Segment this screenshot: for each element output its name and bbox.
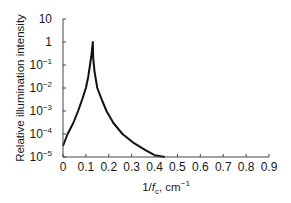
y-tick-label: 10−2 [30, 80, 53, 95]
intensity-curve [63, 42, 165, 157]
y-tick-label: 10−4 [30, 126, 53, 141]
y-tick-label: 10−1 [30, 57, 53, 72]
y-tick-label: 10−5 [30, 149, 53, 164]
x-tick-label: 0.5 [169, 160, 186, 174]
x-tick-label: 0.8 [238, 160, 255, 174]
chart: 10110−110−210−310−410−5 00.10.20.30.40.5… [0, 0, 291, 203]
y-tick-label: 10 [39, 12, 53, 26]
y-tick-label: 10−3 [30, 103, 53, 118]
axes [63, 19, 269, 157]
y-axis-label: Relative illumination intensity [14, 14, 26, 162]
y-axis-ticks: 10110−110−210−310−410−5 [30, 12, 66, 164]
data-curve [63, 42, 165, 157]
x-tick-label: 0.6 [192, 160, 209, 174]
x-tick-label: 0.9 [261, 160, 278, 174]
x-tick-label: 0.4 [146, 160, 163, 174]
x-tick-label: 0.2 [100, 160, 117, 174]
x-tick-label: 0 [60, 160, 67, 174]
x-tick-label: 0.7 [215, 160, 232, 174]
x-tick-label: 0.3 [123, 160, 140, 174]
x-tick-label: 0.1 [78, 160, 95, 174]
x-axis-label: 1/fc, cm−1 [142, 179, 190, 196]
y-tick-label: 1 [45, 35, 52, 49]
